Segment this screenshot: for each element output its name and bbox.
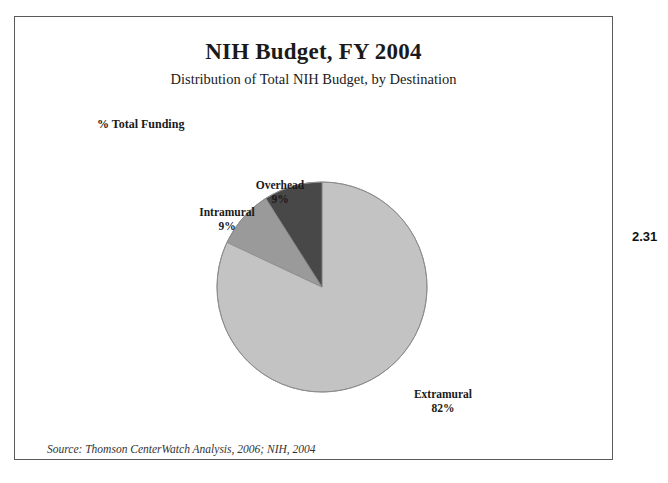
pie-slice-label-overhead-name: Overhead bbox=[256, 179, 305, 191]
pie-slice-label-extramural: Extramural 82% bbox=[391, 387, 495, 416]
source-note: Source: Thomson CenterWatch Analysis, 20… bbox=[47, 443, 316, 455]
pie-slice-label-overhead: Overhead 9% bbox=[237, 178, 323, 207]
pie-slice-label-extramural-value: 82% bbox=[391, 401, 495, 415]
figure-frame: NIH Budget, FY 2004 Distribution of Tota… bbox=[14, 16, 613, 460]
chart-axis-note: % Total Funding bbox=[97, 117, 184, 132]
pie-slice-label-intramural-value: 9% bbox=[181, 219, 273, 233]
pie-slice-label-extramural-name: Extramural bbox=[414, 388, 472, 400]
figure-number: 2.31 bbox=[632, 229, 657, 244]
page-title: NIH Budget, FY 2004 bbox=[15, 39, 612, 65]
pie-slice-label-intramural: Intramural 9% bbox=[181, 205, 273, 234]
pie-slice-label-intramural-name: Intramural bbox=[199, 206, 255, 218]
chart-subtitle: Distribution of Total NIH Budget, by Des… bbox=[15, 71, 612, 88]
